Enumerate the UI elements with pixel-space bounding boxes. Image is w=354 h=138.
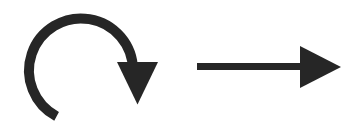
figure-canvas: Refresh and forward arrow glyphs A clock…	[0, 0, 354, 138]
arrow-diagram: Refresh and forward arrow glyphs A clock…	[0, 0, 354, 138]
straight-arrow-shaft	[197, 63, 304, 70]
